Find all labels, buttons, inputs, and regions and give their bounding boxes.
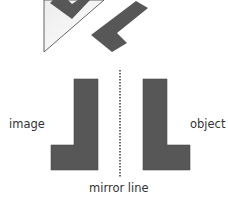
rotated-object-shape	[91, 1, 148, 52]
object-l-shape	[143, 79, 190, 170]
object-label: object	[190, 117, 225, 131]
image-label: image	[9, 117, 45, 131]
image-l-shape	[51, 79, 98, 170]
diagram-canvas	[0, 0, 228, 200]
mirror-diagram: image object mirror line	[0, 0, 228, 200]
mirror-line-label: mirror line	[89, 181, 149, 195]
